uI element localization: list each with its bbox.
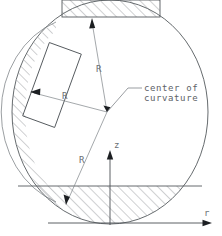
bottom-hatched-segment	[0, 180, 222, 236]
radius-bottom-label: R	[79, 155, 85, 165]
r-axis-label: r	[204, 208, 210, 218]
center-label-line2: curvature	[144, 93, 198, 103]
center-of-curvature-leader	[107, 88, 142, 112]
center-of-curvature-label: center of curvature	[144, 83, 198, 103]
radius-top-arrowhead	[89, 18, 95, 28]
top-hatched-block	[62, 0, 160, 17]
r-axis-arrowhead	[203, 220, 213, 226]
diagram-canvas: R R R center of curvature z	[0, 0, 222, 236]
radius-dimension-middle: R	[30, 89, 107, 112]
radius-middle-label: R	[62, 91, 68, 101]
radius-middle-line	[34, 93, 107, 112]
radius-dimension-top: R	[89, 18, 107, 112]
z-axis-label: z	[114, 140, 119, 150]
curvature-diagram-svg: R R R center of curvature z	[0, 0, 222, 236]
bottom-segment-hatch-fill	[0, 180, 222, 236]
radius-top-label: R	[96, 64, 102, 74]
center-of-curvature-marker	[103, 88, 142, 112]
radius-middle-arrowhead	[30, 89, 40, 96]
center-label-line1: center of	[144, 83, 198, 93]
top-block-hatch-fill	[62, 0, 160, 17]
z-axis-arrowhead	[107, 150, 113, 160]
